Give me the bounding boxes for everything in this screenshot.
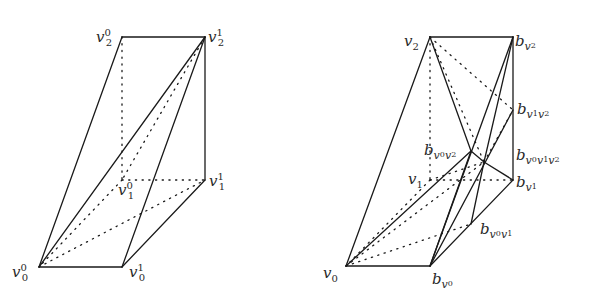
label-v1-1: v11	[209, 172, 225, 192]
label-b-v0v1v2: bv0v1v2	[516, 148, 560, 163]
left-prism	[39, 37, 205, 267]
label-b-v2: bv2	[515, 34, 536, 49]
label-v1-0: v01	[118, 181, 134, 201]
label-b-v0: bv0	[432, 272, 453, 287]
label-b-v0v2: bv0v2	[424, 143, 456, 158]
label-b-v0v1: bv0v1	[480, 222, 512, 237]
diagram-lines	[0, 0, 590, 308]
label-b-v1v2: bv1v2	[517, 102, 549, 117]
label-b-v1: bv1	[516, 175, 537, 190]
label-v0-0: v00	[12, 263, 28, 283]
label-v2: v2	[404, 34, 419, 52]
prism-subdivision-diagram: v02 v12 v01 v11 v00 v10 v2 v1 v0 bv2 bv1…	[0, 0, 590, 308]
label-v2-0: v02	[96, 28, 112, 48]
label-v1: v1	[408, 172, 423, 190]
label-v0: v0	[323, 266, 338, 284]
label-v0-1: v10	[129, 263, 145, 283]
label-v2-1: v12	[208, 28, 224, 48]
